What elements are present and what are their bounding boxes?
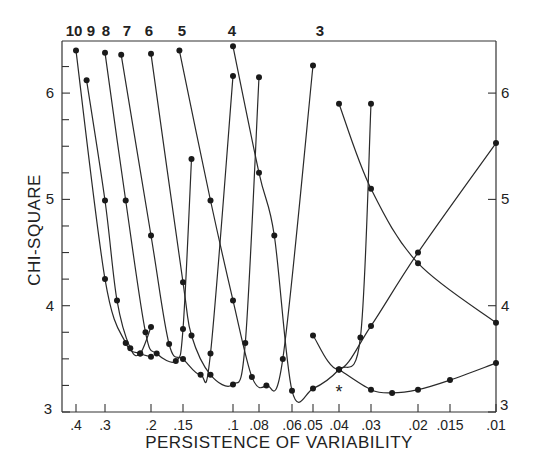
data-point: [176, 48, 182, 54]
curve-label-9: 9: [87, 22, 95, 39]
data-point: [114, 297, 120, 303]
data-point: [137, 351, 143, 357]
y-tick-label-left: 5: [46, 190, 54, 207]
data-point: [148, 354, 154, 360]
data-point: [123, 340, 129, 346]
curves: [76, 46, 496, 402]
data-point: [368, 101, 374, 107]
data-point: [336, 367, 342, 373]
data-point: [256, 74, 262, 80]
x-tick-label: .04: [329, 417, 349, 433]
data-point: [242, 340, 248, 346]
data-point: [127, 345, 133, 351]
data-point: [310, 333, 316, 339]
data-point: [230, 43, 236, 49]
curve-label-4: 4: [228, 22, 237, 39]
data-point: [357, 335, 363, 341]
axis-ticks: [62, 67, 496, 412]
x-tick-label: .3: [99, 417, 111, 433]
data-point: [249, 374, 255, 380]
y-tick-label-left: 4: [46, 297, 54, 314]
curve-label-5: 5: [178, 22, 186, 39]
data-point: [271, 233, 277, 239]
x-tick-label: .02: [408, 417, 428, 433]
data-point: [123, 198, 129, 204]
curve-label-3: 3: [316, 22, 324, 39]
x-tick-label: .01: [486, 417, 506, 433]
curve-label-8: 8: [102, 22, 110, 39]
chi-square-chart: .4.3.2.15.1.08.06.05.04.03.02.015.013344…: [0, 0, 534, 475]
data-point: [208, 372, 214, 378]
data-point: [198, 372, 204, 378]
x-tick-label: .1: [227, 417, 239, 433]
curve-3: [339, 104, 496, 323]
y-tick-label-right: 6: [501, 84, 509, 101]
data-point: [310, 63, 316, 69]
data-point: [415, 387, 421, 393]
y-tick-label-right: 3: [500, 396, 508, 413]
data-point: [415, 260, 421, 266]
data-point: [230, 381, 236, 387]
plot-frame: [62, 41, 496, 412]
y-tick-label-left: 3: [44, 400, 52, 417]
data-point: [208, 198, 214, 204]
data-point: [447, 377, 453, 383]
data-point: [143, 329, 149, 335]
data-point: [102, 50, 108, 56]
data-point: [118, 52, 124, 58]
x-tick-label: .05: [303, 417, 323, 433]
x-tick-label: .2: [145, 417, 157, 433]
y-tick-label-right: 5: [501, 190, 509, 207]
data-point: [180, 279, 186, 285]
data-point: [102, 198, 108, 204]
data-point: [280, 356, 286, 362]
x-tick-label: .06: [282, 417, 302, 433]
data-point: [230, 73, 236, 79]
data-point: [368, 387, 374, 393]
data-point: [73, 48, 79, 54]
data-point: [368, 323, 374, 329]
curve-4: [233, 46, 371, 402]
curve-8: [105, 53, 192, 363]
curve-10: [76, 51, 151, 357]
data-point: [166, 341, 172, 347]
curve-label-10: 10: [66, 22, 83, 39]
data-point: [208, 351, 214, 357]
y-tick-label-left: 6: [46, 84, 54, 101]
y-tick-label-right: 4: [501, 297, 509, 314]
x-tick-label: .15: [173, 417, 193, 433]
curve-labels: 109876543: [66, 22, 325, 39]
data-point: [102, 276, 108, 282]
data-point: [148, 51, 154, 57]
data-point: [493, 320, 499, 326]
curve-label-7: 7: [123, 22, 131, 39]
data-point: [154, 351, 160, 357]
data-point: [368, 186, 374, 192]
data-point: [173, 358, 179, 364]
data-point: [493, 140, 499, 146]
data-point: [180, 356, 186, 362]
data-point: [336, 101, 342, 107]
data-point: [263, 382, 269, 388]
x-tick-label: .4: [70, 417, 82, 433]
data-point: [180, 326, 186, 332]
y-axis-title: CHI-SQUARE: [25, 174, 44, 286]
curve-label-6: 6: [145, 22, 153, 39]
curve-7: [121, 55, 233, 383]
curve-5: [179, 51, 313, 391]
data-point: [289, 388, 295, 394]
data-point: [256, 170, 262, 176]
data-point: [189, 156, 195, 162]
data-point: [415, 250, 421, 256]
x-axis-title: PERSISTENCE OF VARIABILITY: [145, 433, 413, 452]
data-point: [230, 297, 236, 303]
data-point: [310, 386, 316, 392]
data-point: [84, 77, 90, 83]
x-tick-label: .015: [436, 417, 463, 433]
x-tick-label: .03: [361, 417, 381, 433]
data-point: [189, 333, 195, 339]
data-point: [493, 360, 499, 366]
data-point: [148, 324, 154, 330]
data-point: [389, 390, 395, 396]
x-tick-label: .08: [249, 417, 269, 433]
